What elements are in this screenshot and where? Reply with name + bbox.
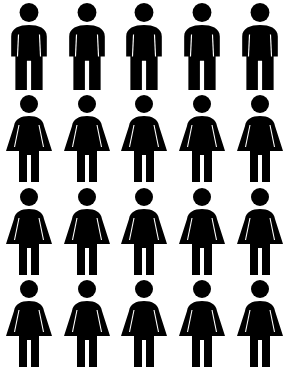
female-figure-icon [0, 185, 58, 277]
male-figure-icon [116, 0, 174, 92]
female-figure-icon [116, 185, 174, 277]
female-figure-icon [231, 185, 289, 277]
pictogram-grid [0, 0, 289, 369]
male-figure-icon [58, 0, 116, 92]
female-figure-icon [231, 92, 289, 184]
female-figure-icon [116, 277, 174, 369]
female-figure-icon [231, 277, 289, 369]
male-figure-icon [0, 0, 58, 92]
female-figure-icon [58, 92, 116, 184]
female-figure-icon [0, 277, 58, 369]
female-figure-icon [116, 92, 174, 184]
female-figure-icon [0, 92, 58, 184]
female-figure-icon [173, 277, 231, 369]
female-figure-icon [58, 277, 116, 369]
pictogram-canvas [0, 0, 289, 369]
male-figure-icon [173, 0, 231, 92]
male-figure-icon [231, 0, 289, 92]
female-figure-icon [173, 185, 231, 277]
female-figure-icon [173, 92, 231, 184]
female-figure-icon [58, 185, 116, 277]
